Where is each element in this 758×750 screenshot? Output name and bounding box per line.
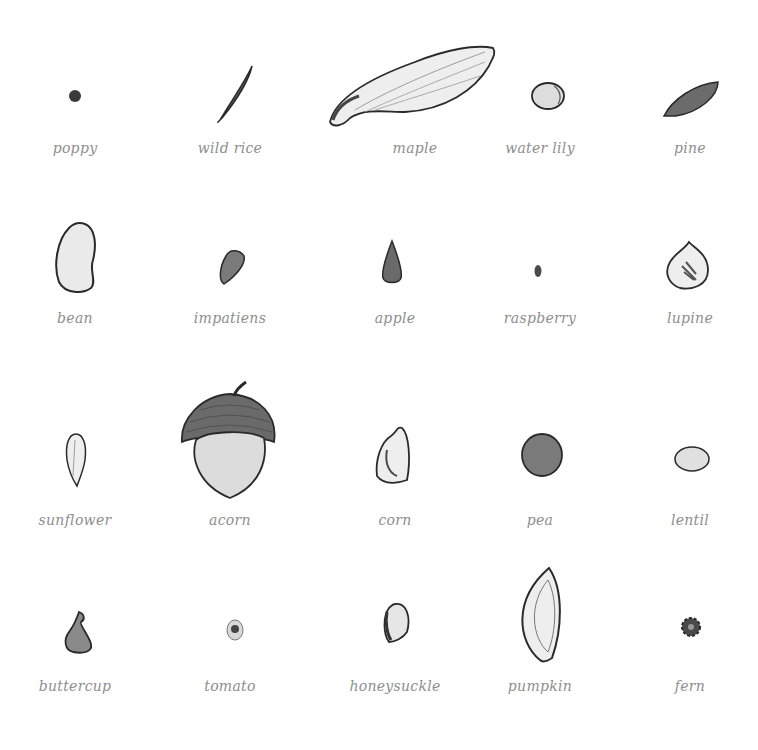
seed-label: acorn: [150, 512, 310, 528]
seed-label: lentil: [610, 512, 758, 528]
seed-label: pine: [610, 140, 758, 156]
seed-label: buttercup: [0, 678, 155, 694]
seed-label: apple: [315, 310, 475, 326]
seed-label: raspberry: [460, 310, 620, 326]
seed-label: honeysuckle: [315, 678, 475, 694]
seed-label: fern: [610, 678, 758, 694]
seed-label: sunflower: [0, 512, 155, 528]
seed-label: tomato: [150, 678, 310, 694]
seed-label: pumpkin: [460, 678, 620, 694]
seed-label: poppy: [0, 140, 155, 156]
seed-label: lupine: [610, 310, 758, 326]
seed-label: bean: [0, 310, 155, 326]
seed-label: pea: [460, 512, 620, 528]
seed-label: corn: [315, 512, 475, 528]
seed-label: impatiens: [150, 310, 310, 326]
seed-label: wild rice: [150, 140, 310, 156]
seed-label: water lily: [460, 140, 620, 156]
